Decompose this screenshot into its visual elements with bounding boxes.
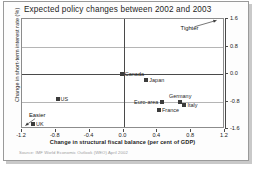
x-axis-tick-label: -1.2 [16, 132, 26, 138]
x-axis-tick-label: -0.4 [84, 132, 94, 138]
y-axis-tick-label: 1.6 [230, 15, 238, 21]
source-note: Source: IMF World Economic Outlook (WEO)… [19, 150, 128, 155]
x-axis-tick-mark [55, 129, 56, 132]
y-axis-tick-label: -0.8 [230, 98, 240, 104]
x-axis-tick-label: 0.4 [152, 132, 160, 138]
page-title: Expected policy changes between 2002 and… [24, 5, 211, 14]
x-axis-tick-label: 0.0 [119, 132, 127, 138]
x-axis-tick-label: 0.8 [186, 132, 194, 138]
y-axis-spine [225, 18, 226, 128]
y-axis-tick-label: -1.6 [230, 125, 240, 131]
x-axis-tick-mark [21, 129, 22, 132]
x-axis-tick-label: -0.8 [50, 132, 60, 138]
annotation-arrow-easier [22, 19, 225, 129]
y-axis-title-container: Change in short-term interest rate (%) [6, 18, 18, 128]
slide-canvas: Expected policy changes between 2002 and… [0, 0, 255, 169]
y-axis-tick-mark [225, 128, 228, 129]
x-axis-tick-mark [123, 129, 124, 132]
y-axis-title: Change in short-term interest rate (%) [14, 16, 20, 102]
x-axis-tick-mark [190, 129, 191, 132]
x-axis-tick-label: 1.2 [220, 132, 228, 138]
page-shadow-right [249, 4, 252, 164]
plot-area: CanadaJapanEuro-areaGermanyItalyFranceUS… [21, 18, 224, 128]
y-axis-tick-label: 0.8 [230, 43, 238, 49]
y-axis-tick-label: 0.0 [230, 70, 238, 76]
x-axis-tick-mark [89, 129, 90, 132]
x-axis-title: Change in structural fiscal balance (per… [21, 139, 224, 145]
x-axis-tick-mark [156, 129, 157, 132]
page-shadow-bottom [6, 161, 252, 164]
x-axis-tick-mark [224, 129, 225, 132]
